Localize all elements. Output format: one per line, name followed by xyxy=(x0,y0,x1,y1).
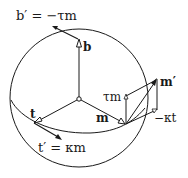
m-label: m xyxy=(96,111,109,125)
t-prime-vector xyxy=(34,123,58,137)
b-prime-label: b′ = −τm xyxy=(16,8,77,23)
m-prime-label: m′ xyxy=(160,75,176,89)
tau-m-label: τm xyxy=(103,90,122,104)
origin-point xyxy=(77,97,81,101)
t-prime-label: t′ = κm xyxy=(38,140,86,155)
b-arrowhead-icon xyxy=(77,39,82,47)
m-arrowhead-icon xyxy=(118,118,125,124)
minus-kappa-t-label: −κt xyxy=(154,111,177,125)
t-vector xyxy=(38,100,77,121)
b-label: b xyxy=(83,40,91,54)
sphere-diagram: b′ = −τm b t t′ = κm m τm m′ −κt xyxy=(0,0,188,178)
t-label: t xyxy=(30,107,36,121)
parallelogram-top-edge xyxy=(126,80,156,96)
